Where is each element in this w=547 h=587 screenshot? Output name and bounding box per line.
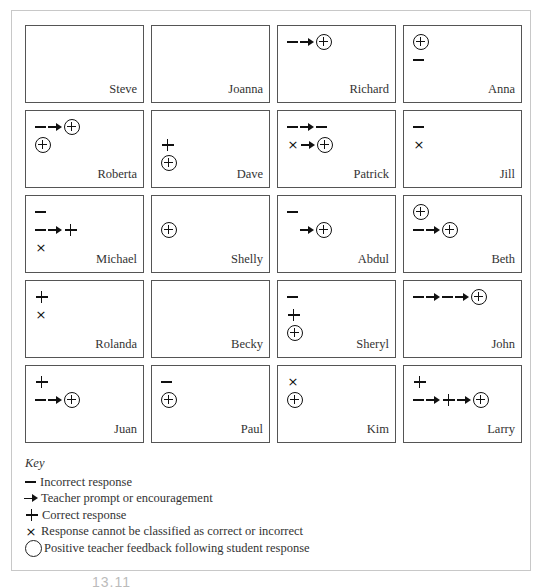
circled-plus-icon	[471, 289, 487, 305]
student-box: Beth	[403, 195, 522, 273]
arrow-right-icon	[299, 120, 315, 134]
circled-plus-icon	[442, 222, 458, 238]
interaction-sequence	[35, 118, 80, 154]
interaction-sequence	[161, 118, 177, 172]
circle-icon	[25, 540, 42, 557]
circled-plus-icon	[161, 222, 177, 238]
plus-icon	[442, 393, 455, 407]
plus-icon	[35, 375, 48, 389]
circled-plus-icon	[317, 137, 333, 153]
student-box: John	[403, 280, 522, 358]
interaction-line	[287, 221, 332, 239]
student-name: Anna	[488, 82, 515, 97]
student-name: Sheryl	[356, 337, 389, 352]
arrow-right-icon	[47, 393, 63, 407]
minus-icon	[35, 223, 46, 237]
interaction-line	[35, 373, 80, 391]
legend-item-feedback: Positive teacher feedback following stud…	[25, 540, 515, 557]
student-name: Rolanda	[95, 337, 137, 352]
seating-chart-grid: SteveJoannaRichardAnnaRobertaDave×Patric…	[25, 25, 521, 443]
times-icon: ×	[413, 138, 425, 152]
student-name: Becky	[231, 337, 263, 352]
times-icon: ×	[35, 241, 47, 255]
minus-icon	[35, 120, 46, 134]
interaction-sequence: ×	[287, 373, 303, 409]
student-box: Larry	[403, 365, 522, 443]
minus-icon	[316, 120, 327, 134]
legend-label: Response cannot be classified as correct…	[41, 524, 303, 539]
minus-icon	[287, 35, 298, 49]
legend: Key Incorrect response Teacher prompt or…	[25, 456, 515, 557]
interaction-line	[287, 391, 303, 409]
interaction-sequence: ×	[413, 118, 425, 154]
student-box: Sheryl	[277, 280, 396, 358]
plus-icon	[35, 290, 48, 304]
circled-plus-icon	[473, 392, 489, 408]
student-name: Steve	[109, 82, 137, 97]
student-box: Dave	[151, 110, 270, 188]
student-name: Paul	[241, 422, 263, 437]
interaction-line	[287, 306, 303, 324]
interaction-line	[161, 154, 177, 172]
circled-plus-icon	[35, 137, 51, 153]
interaction-sequence: ×	[35, 288, 48, 324]
interaction-line	[287, 324, 303, 342]
minus-icon	[413, 53, 424, 67]
legend-item-unclassified: × Response cannot be classified as corre…	[25, 524, 515, 541]
interaction-line	[161, 221, 177, 239]
arrow-right-icon	[425, 393, 441, 407]
legend-title: Key	[25, 456, 515, 471]
interaction-line	[413, 203, 458, 221]
interaction-sequence: ×	[287, 118, 333, 154]
minus-icon	[287, 290, 298, 304]
student-box: Richard	[277, 25, 396, 103]
interaction-line	[35, 288, 48, 306]
interaction-line	[287, 203, 332, 221]
minus-icon	[35, 205, 46, 219]
student-box: ×Jill	[403, 110, 522, 188]
student-box: Abdul	[277, 195, 396, 273]
circled-plus-icon	[287, 392, 303, 408]
circled-plus-icon	[287, 325, 303, 341]
interaction-sequence	[413, 288, 487, 306]
arrow-right-icon	[23, 492, 39, 506]
interaction-line	[413, 33, 429, 51]
interaction-line	[413, 221, 458, 239]
legend-item-correct: Correct response	[25, 507, 515, 524]
student-name: Beth	[491, 252, 515, 267]
interaction-line	[287, 33, 332, 51]
circled-plus-icon	[161, 155, 177, 171]
student-name: Juan	[114, 422, 137, 437]
interaction-line	[161, 118, 177, 136]
interaction-line: ×	[287, 373, 303, 391]
interaction-line	[35, 136, 80, 154]
interaction-line	[35, 203, 77, 221]
interaction-line	[287, 118, 333, 136]
minus-icon	[35, 393, 46, 407]
student-box: ×Rolanda	[25, 280, 144, 358]
circled-plus-icon	[64, 119, 80, 135]
plus-icon	[161, 138, 174, 152]
plus-icon	[64, 223, 77, 237]
interaction-sequence	[287, 33, 332, 51]
interaction-line: ×	[413, 136, 425, 154]
arrow-right-icon	[47, 120, 63, 134]
interaction-line	[413, 288, 487, 306]
arrow-right-icon	[47, 223, 63, 237]
circled-plus-icon	[316, 34, 332, 50]
arrow-right-icon	[299, 35, 315, 49]
interaction-sequence	[413, 203, 458, 239]
legend-label: Incorrect response	[40, 475, 132, 490]
student-name: Joanna	[228, 82, 263, 97]
interaction-sequence	[413, 373, 489, 409]
minus-icon	[413, 120, 424, 134]
interaction-line	[413, 391, 489, 409]
interaction-line	[287, 288, 303, 306]
interaction-sequence	[287, 288, 303, 342]
legend-label: Correct response	[42, 508, 126, 523]
minus-icon	[287, 205, 298, 219]
arrow-right-icon	[300, 138, 316, 152]
times-icon: ×	[25, 525, 37, 539]
student-name: Shelly	[231, 252, 263, 267]
circled-plus-icon	[161, 392, 177, 408]
